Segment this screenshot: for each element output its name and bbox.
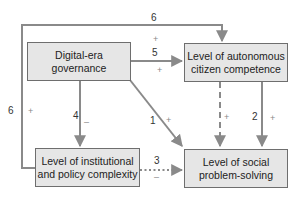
node-label: Level of social problem-solving — [191, 156, 281, 182]
node-autonomous-citizen-competence: Level of autonomous citizen competence — [184, 43, 288, 82]
edge-1-number: 1 — [150, 116, 156, 126]
node-label: Digital-era governance — [44, 49, 114, 75]
node-social-problem-solving: Level of social problem-solving — [184, 149, 288, 188]
node-institutional-policy-complexity: Level of institutional and policy comple… — [35, 148, 140, 187]
edge-6-sign-top: + — [153, 35, 158, 44]
edge-2-sign: + — [270, 114, 275, 123]
edge-1-sign: + — [166, 116, 171, 125]
edge-4-number: 4 — [73, 111, 79, 121]
edge-2-number: 2 — [252, 112, 258, 122]
edge-3-number: 3 — [154, 156, 160, 166]
node-label: Level of institutional and policy comple… — [37, 155, 139, 181]
edge-6-number-top: 6 — [151, 13, 157, 23]
edge-5-number: 5 — [152, 48, 158, 58]
node-digital-era-governance: Digital-era governance — [27, 42, 131, 81]
edge-5-sign: + — [157, 66, 162, 75]
node-label: Level of autonomous citizen competence — [186, 50, 286, 76]
edge-6-sign-left: + — [28, 107, 33, 116]
edge-6-number-left: 6 — [8, 106, 14, 116]
edge-3-sign: – — [154, 173, 159, 182]
edge-1 — [130, 80, 182, 146]
edge-dashed-sign: + — [224, 113, 229, 122]
edge-4-sign: – — [84, 118, 89, 127]
